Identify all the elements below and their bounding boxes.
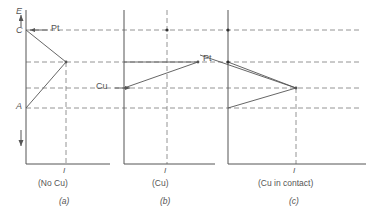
panel-c-marker-upper (226, 28, 229, 31)
panel-b-anodic-curve (124, 62, 198, 88)
panel-c-convergence-point (295, 87, 298, 90)
construction-lines (26, 10, 360, 164)
panel-c-marker-lower (226, 60, 229, 63)
caption-condition-c: (Cu in contact) (258, 178, 313, 188)
panel-b-axes (124, 10, 215, 164)
panel-b-upper-marker (165, 28, 168, 31)
panel-letter-a: (a) (59, 196, 69, 206)
panel-letter-c: (c) (289, 196, 299, 206)
species-label-cu: Cu (96, 81, 108, 91)
x-axis-label-c: I (293, 166, 295, 175)
panel-letter-b: (b) (160, 196, 170, 206)
electrode-label-pt-a: Pt (51, 23, 60, 33)
panel-a-intersection-point (65, 61, 68, 64)
panel-b-intersection-point (197, 61, 200, 64)
panel-c-axes (228, 10, 366, 164)
caption-condition-a: (No Cu) (38, 178, 68, 188)
electrode-label-pt-b: Pt (203, 53, 212, 63)
figure-container: E C A Pt Cu Pt I I I (No Cu) (Cu) (Cu in… (0, 0, 371, 221)
axis-label-E: E (16, 6, 22, 16)
panel-a-curves (26, 30, 66, 108)
point-label-C: C (16, 25, 23, 35)
point-label-A: A (16, 101, 22, 111)
x-axis-label-a: I (63, 166, 65, 175)
caption-condition-b: (Cu) (152, 178, 169, 188)
x-axis-label-b: I (164, 166, 166, 175)
panel-c-curves (200, 55, 296, 108)
